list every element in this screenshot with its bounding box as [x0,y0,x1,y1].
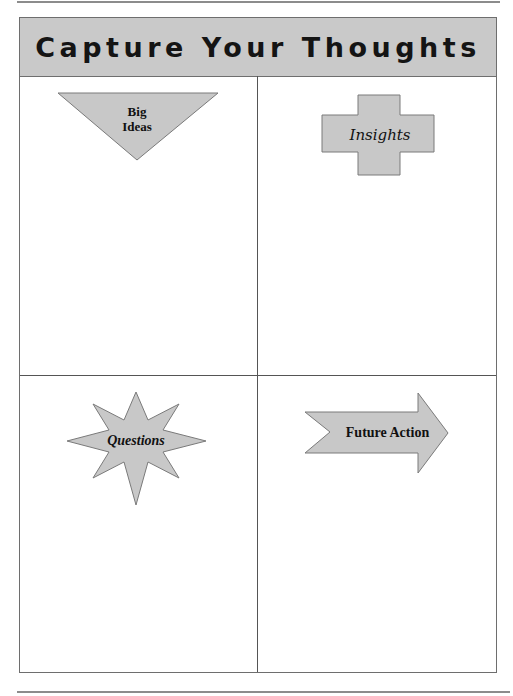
insights-label: Insights [330,126,430,144]
big-ideas-line2: Ideas [97,119,177,134]
questions-label: Questions [86,433,186,449]
bottom-rule [17,691,510,693]
future-action-label: Future Action [330,425,445,441]
big-ideas-line1: Big [97,104,177,119]
shape-layer [0,0,513,696]
big-ideas-label: Big Ideas [97,104,177,134]
